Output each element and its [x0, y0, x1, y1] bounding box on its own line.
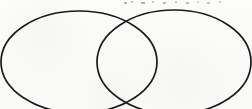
- right-set-ellipse: [97, 10, 251, 109]
- venn-diagram-figure: [0, 0, 252, 109]
- venn-diagram-canvas: [0, 0, 252, 109]
- left-set-ellipse: [1, 11, 157, 109]
- top-scan-artifacts: [124, 1, 221, 4]
